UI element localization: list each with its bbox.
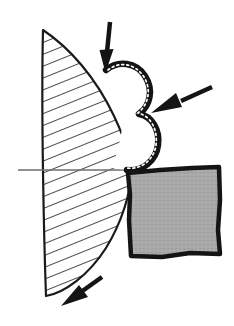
figure-container: Sagittal schematic of intervertebral dis…	[0, 0, 234, 326]
arrow-top-shaft	[107, 22, 110, 52]
gray-block	[128, 167, 220, 257]
arrow-right-shaft	[181, 87, 212, 101]
arrow-bottom-shaft	[81, 277, 102, 292]
diagram-canvas	[0, 0, 234, 326]
arrow-compression-right	[151, 87, 212, 113]
gray-block-shape	[128, 167, 220, 257]
arrow-right-head	[151, 93, 182, 113]
